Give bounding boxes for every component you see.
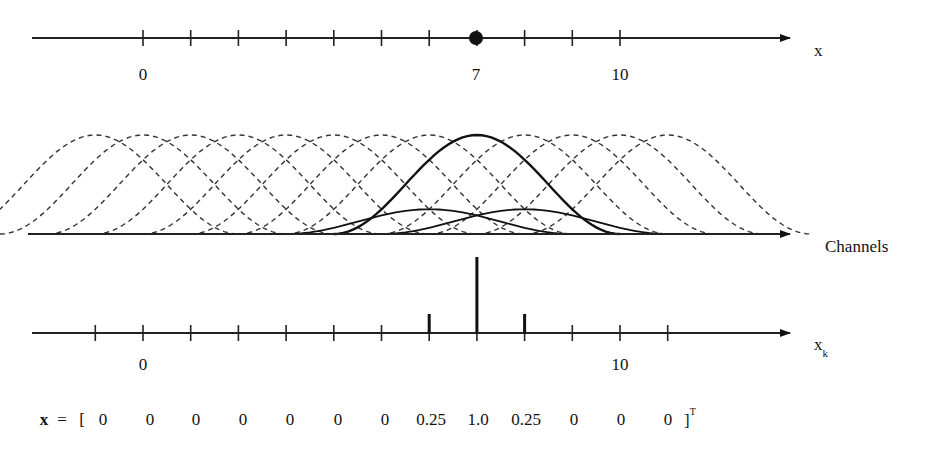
- channels-axis-label: Channels: [825, 238, 888, 255]
- dashed-channel-curve: [477, 135, 763, 234]
- vector-name: x: [40, 410, 49, 430]
- dashed-channel-curve: [143, 135, 429, 234]
- vector-equals: =: [57, 410, 67, 430]
- vector-value: 1.0: [467, 410, 488, 430]
- channel-vector: x = [ 0 0 0 0 0 0 0 0.25 1.0 0.25 0 0 0 …: [0, 410, 933, 434]
- dashed-channel-curve: [286, 135, 572, 234]
- bottom-axis-name-main: x: [814, 335, 823, 354]
- vector-value: 0.25: [511, 410, 541, 430]
- active-channel-curve: [334, 135, 620, 234]
- bottom-tick-label-0: 0: [139, 356, 148, 373]
- vector-value: 0: [286, 410, 295, 430]
- dashed-channel-curve: [429, 135, 715, 234]
- channel-value-stems: [429, 257, 524, 333]
- vector-close-bracket-glyph: ]: [684, 411, 690, 430]
- dashed-channel-curve: [382, 135, 668, 234]
- vector-value: 0: [192, 410, 201, 430]
- marked-point-dot: [469, 31, 483, 45]
- vector-value: 0: [381, 410, 390, 430]
- bottom-axis-subscript: k: [823, 347, 829, 359]
- dashed-channel-curve: [191, 135, 477, 234]
- channel-curves: [0, 135, 811, 234]
- top-tick-label-10: 10: [612, 66, 629, 83]
- bottom-xk-axis: [32, 257, 790, 341]
- top-x-axis: [32, 30, 790, 46]
- vector-value: 0: [146, 410, 155, 430]
- dashed-channel-curve: [48, 135, 334, 234]
- dashed-channel-curve: [525, 135, 811, 234]
- transpose-superscript: T: [690, 406, 696, 417]
- top-tick-label-0: 0: [139, 66, 148, 83]
- vector-value: 0: [664, 410, 673, 430]
- vector-value: 0: [239, 410, 248, 430]
- active-channel-curves: [286, 135, 668, 234]
- vector-value: 0: [99, 410, 108, 430]
- vector-value: 0: [334, 410, 343, 430]
- dashed-channel-curve: [0, 135, 286, 234]
- dashed-channel-curve: [238, 135, 524, 234]
- bottom-tick-label-10: 10: [612, 356, 629, 373]
- vector-value: 0: [570, 410, 579, 430]
- top-tick-label-7: 7: [472, 66, 481, 83]
- vector-value: 0.25: [416, 410, 446, 430]
- top-axis-name: x: [814, 42, 823, 59]
- vector-open-bracket: [: [79, 410, 85, 430]
- vector-close-bracket: ]T: [684, 410, 696, 431]
- vector-value: 0: [617, 410, 626, 430]
- bottom-axis-name: xk: [814, 336, 828, 356]
- dashed-channel-curve: [95, 135, 381, 234]
